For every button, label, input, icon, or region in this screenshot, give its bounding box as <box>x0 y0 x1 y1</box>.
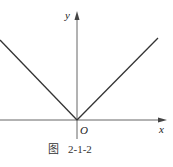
graph-left-branch <box>0 40 77 120</box>
y-axis-arrow-icon <box>75 11 80 20</box>
origin-label: O <box>80 125 88 136</box>
caption-prefix: 图 <box>48 143 59 155</box>
figure-caption: 图2-1-2 <box>48 140 92 156</box>
graph-right-branch <box>77 38 158 120</box>
figure-2-1-2: y O x 图2-1-2 <box>0 0 173 167</box>
x-axis-label: x <box>159 124 164 135</box>
x-axis-arrow-icon <box>158 118 167 123</box>
y-axis-label: y <box>65 10 70 21</box>
caption-number: 2-1-2 <box>68 143 92 155</box>
